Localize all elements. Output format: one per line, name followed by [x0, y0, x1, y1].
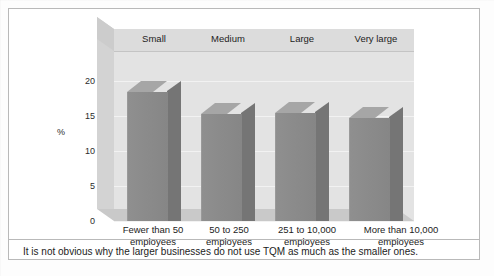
bar-very-large-front	[349, 118, 390, 221]
bar-large-side	[315, 102, 329, 221]
group-label-large: Large	[265, 33, 339, 45]
bar-small-side	[167, 81, 181, 221]
bar-medium-top	[201, 103, 241, 114]
y-tick-15: 15	[69, 112, 95, 121]
figure-frame: 0 5 10 15 20 % Small Medium Large Very l…	[8, 8, 480, 260]
bar-very-large-top	[349, 107, 389, 118]
gridline-0	[114, 221, 414, 222]
y-tick-20: 20	[69, 77, 95, 86]
caption-divider	[9, 239, 479, 240]
x-label-large-line1: 251 to 10,000	[259, 224, 355, 236]
y-axis-label: %	[57, 127, 65, 137]
page-background: 0 5 10 15 20 % Small Medium Large Very l…	[0, 0, 494, 276]
group-label-medium: Medium	[191, 33, 265, 45]
bar-large[interactable]	[275, 102, 315, 221]
bar-large-top	[275, 102, 315, 113]
bar-small[interactable]	[127, 81, 167, 221]
bar-medium[interactable]	[201, 103, 241, 221]
bar-medium-front	[201, 114, 242, 221]
bar-small-top	[127, 81, 167, 92]
group-label-small: Small	[117, 33, 191, 45]
figure-caption: It is not obvious why the larger busines…	[23, 245, 469, 258]
y-tick-10: 10	[69, 147, 95, 156]
bar-very-large[interactable]	[349, 107, 389, 221]
x-label-very-large-line1: More than 10,000	[349, 224, 453, 236]
bar-small-front	[127, 92, 168, 221]
bar-large-front	[275, 113, 316, 221]
group-label-very-large: Very large	[339, 33, 413, 45]
bar-very-large-side	[389, 107, 403, 221]
y-tick-0: 0	[69, 217, 95, 226]
bar-medium-side	[241, 103, 255, 221]
y-tick-5: 5	[69, 182, 95, 191]
bar-chart: 0 5 10 15 20 % Small Medium Large Very l…	[9, 9, 479, 237]
